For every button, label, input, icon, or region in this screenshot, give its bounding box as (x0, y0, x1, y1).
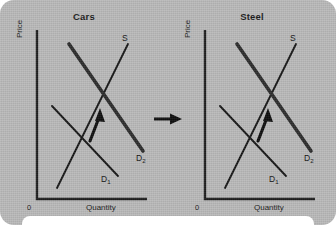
panel-steel: Steel Price Quantity 0 S D2 (168, 0, 336, 216)
curve-label-d2-sub-steel: 2 (310, 158, 313, 164)
plot-area-steel (168, 0, 336, 216)
figure-container: Cars Price Quantity 0 S (0, 0, 336, 231)
plot-area-cars (0, 0, 168, 216)
curve-label-d1-sub-steel: 1 (275, 179, 278, 185)
curve-label-d2-steel: D2 (304, 153, 313, 163)
demand-curve-1-steel (220, 106, 286, 176)
curve-label-d2-sub-cars: 2 (142, 158, 145, 164)
demand-curve-1-cars (52, 106, 118, 176)
axis-lines-cars (37, 30, 147, 199)
curve-label-d1-cars: D1 (101, 174, 110, 184)
axis-lines-steel (205, 30, 315, 199)
curve-label-s-steel: S (290, 33, 296, 43)
caption-box (22, 216, 314, 231)
curve-label-s-cars: S (122, 33, 128, 43)
panel-cars: Cars Price Quantity 0 S (0, 0, 168, 216)
curve-label-d2-cars: D2 (136, 153, 145, 163)
shift-arrow-icon-steel (258, 108, 273, 141)
shift-arrow-icon-cars (90, 108, 105, 141)
diagram-card: Cars Price Quantity 0 S (0, 0, 336, 225)
curve-label-d1-steel: D1 (269, 174, 278, 184)
curve-label-s-text-steel: S (290, 33, 296, 43)
curve-label-s-text-cars: S (122, 33, 128, 43)
curve-label-d1-sub-cars: 1 (107, 179, 110, 185)
